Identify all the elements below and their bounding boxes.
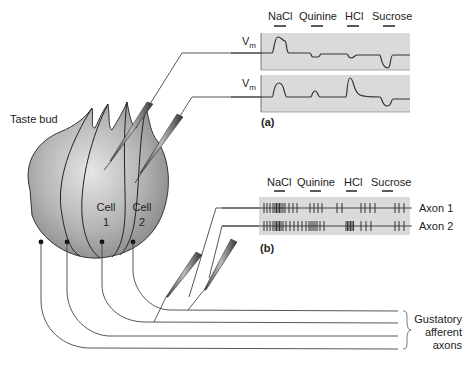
stimulus-label-quinine-a: Quinine [299, 10, 337, 22]
vm-sub: m [249, 41, 256, 50]
stimulus-label-quinine-b: Quinine [297, 176, 335, 188]
cell2-label: Cell 2 [129, 201, 155, 228]
stimulus-label-hcl-a: HCl [345, 10, 363, 22]
taste-bud [28, 102, 168, 258]
panel-a-label: (a) [261, 116, 274, 128]
stimulus-label-nacl-b: NaCl [267, 176, 291, 188]
electrode-axon1 [154, 252, 202, 322]
cell2-label-line1: Cell [129, 201, 155, 213]
afferent-label-line1: Gustatory [400, 313, 462, 326]
axon1-label: Axon 1 [419, 202, 453, 214]
cell1-label-line1: Cell [93, 201, 119, 213]
panel-b-label: (b) [260, 242, 274, 254]
cell1-label: Cell 1 [93, 201, 119, 228]
cell2-label-line2: 2 [129, 216, 155, 228]
afferent-axons-label: Gustatory afferent axons [400, 313, 462, 352]
panel-b [222, 191, 412, 235]
afferent-label-line2: afferent [400, 326, 462, 339]
electrode-axon2 [188, 239, 237, 310]
trace-box-cell1 [261, 33, 410, 70]
axon2-label: Axon 2 [419, 220, 453, 232]
stimulus-label-sucrose-a: Sucrose [372, 10, 412, 22]
panel-a [231, 26, 410, 112]
taste-bud-label: Taste bud [10, 113, 58, 125]
vm-label-cell1: Vm [242, 35, 256, 52]
vm-label-cell2: Vm [242, 77, 256, 94]
vm-sub: m [249, 83, 256, 92]
spike-panel [259, 197, 410, 235]
stimulus-label-hcl-b: HCl [344, 176, 362, 188]
afferent-label-line3: axons [400, 339, 462, 352]
stimulus-label-sucrose-b: Sucrose [371, 176, 411, 188]
cell1-label-line2: 1 [93, 216, 119, 228]
stimulus-label-nacl-a: NaCl [268, 10, 292, 22]
